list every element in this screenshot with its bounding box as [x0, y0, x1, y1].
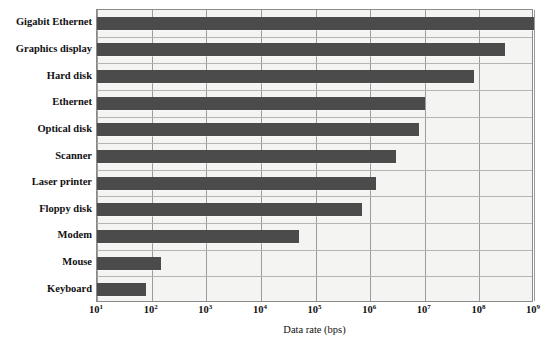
- x-tick-label: 104: [253, 304, 267, 315]
- bar: [97, 123, 419, 136]
- bar: [97, 97, 425, 110]
- x-tick-label: 109: [526, 304, 540, 315]
- y-gridline: [97, 90, 532, 91]
- y-axis-category-label: Modem: [0, 229, 92, 241]
- x-tick-label: 103: [198, 304, 212, 315]
- y-gridline: [97, 170, 532, 171]
- x-tick-label: 107: [417, 304, 431, 315]
- y-axis-category-label: Optical disk: [0, 123, 92, 135]
- bar: [97, 257, 161, 270]
- y-gridline: [97, 196, 532, 197]
- bar: [97, 203, 362, 216]
- x-tick-label: 108: [471, 304, 485, 315]
- bar: [97, 43, 505, 56]
- y-gridline: [97, 37, 532, 38]
- y-axis-category-labels: Gigabit EthernetGraphics displayHard dis…: [0, 9, 92, 302]
- x-tick-label: 102: [144, 304, 158, 315]
- y-axis-category-label: Floppy disk: [0, 203, 92, 215]
- y-axis-category-label: Graphics display: [0, 43, 92, 55]
- bar: [97, 17, 534, 30]
- x-tick-label: 105: [308, 304, 322, 315]
- plot-area: [96, 9, 533, 302]
- y-axis-category-label: Scanner: [0, 150, 92, 162]
- y-gridline: [97, 117, 532, 118]
- y-axis-category-label: Laser printer: [0, 176, 92, 188]
- y-axis-category-label: Mouse: [0, 256, 92, 268]
- x-tick-label: 106: [362, 304, 376, 315]
- bar: [97, 177, 376, 190]
- x-axis-tick-labels: 101102103104105106107108109: [0, 304, 547, 322]
- x-gridline: [534, 10, 535, 301]
- y-axis-category-label: Hard disk: [0, 70, 92, 82]
- y-gridline: [97, 250, 532, 251]
- y-axis-category-label: Keyboard: [0, 283, 92, 295]
- x-axis-title: Data rate (bps): [96, 324, 533, 335]
- y-gridline: [97, 63, 532, 64]
- y-gridline: [97, 143, 532, 144]
- y-axis-category-label: Ethernet: [0, 96, 92, 108]
- y-gridline: [97, 223, 532, 224]
- bar: [97, 283, 146, 296]
- y-axis-category-label: Gigabit Ethernet: [0, 16, 92, 28]
- x-tick-label: 101: [89, 304, 103, 315]
- bar: [97, 150, 396, 163]
- bar: [97, 230, 299, 243]
- y-gridline: [97, 276, 532, 277]
- chart-figure: Gigabit EthernetGraphics displayHard dis…: [0, 0, 547, 347]
- bar: [97, 70, 474, 83]
